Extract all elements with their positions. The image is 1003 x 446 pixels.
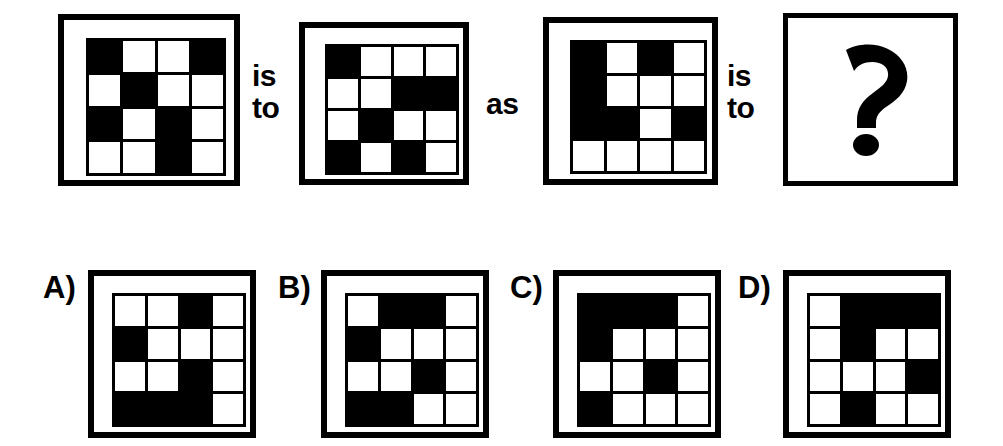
- cell-r1-c4: [213, 296, 243, 326]
- stem-panel-1-grid: [86, 38, 226, 176]
- cell-r1-c3: [414, 296, 444, 326]
- cell-r2-c4: [426, 79, 456, 108]
- cell-r1-c4: [426, 47, 456, 76]
- cell-r1-c4: [674, 43, 705, 73]
- cell-r4-c4: [213, 394, 243, 424]
- cell-r4-c1: [580, 394, 610, 424]
- cell-r1-c3: [876, 296, 906, 326]
- cell-r4-c2: [613, 394, 643, 424]
- option-c-grid: [577, 293, 711, 427]
- connector-is-to-1: is to: [252, 60, 279, 123]
- cell-r3-c3: [646, 362, 676, 392]
- stem-panel-2-inner: [313, 36, 455, 171]
- cell-r4-c3: [181, 394, 211, 424]
- cell-r3-c1: [810, 362, 840, 392]
- cell-r1-c4: [192, 41, 223, 72]
- cell-r4-c1: [348, 394, 378, 424]
- cell-r2-c2: [607, 76, 638, 106]
- cell-r4-c4: [674, 141, 705, 171]
- connector-is-1: is: [252, 60, 279, 92]
- cell-r1-c2: [843, 296, 873, 326]
- cell-r1-c1: [328, 47, 358, 76]
- cell-r3-c1: [580, 362, 610, 392]
- question-mark-icon: [788, 18, 953, 181]
- cell-r4-c3: [414, 394, 444, 424]
- cell-r2-c1: [328, 79, 358, 108]
- cell-r3-c4: [678, 362, 708, 392]
- stem-panel-3-grid: [570, 40, 707, 174]
- cell-r3-c4: [213, 362, 243, 392]
- cell-r1-c2: [361, 47, 391, 76]
- cell-r1-c1: [348, 296, 378, 326]
- cell-r4-c4: [192, 142, 223, 173]
- cell-r3-c3: [158, 109, 189, 140]
- cell-r3-c3: [876, 362, 906, 392]
- cell-r2-c3: [181, 329, 211, 359]
- cell-r2-c3: [394, 79, 424, 108]
- cell-r3-c2: [613, 362, 643, 392]
- cell-r2-c1: [115, 329, 145, 359]
- cell-r3-c2: [361, 111, 391, 140]
- cell-r4-c2: [123, 142, 154, 173]
- cell-r1-c1: [810, 296, 840, 326]
- option-b-letter: B): [278, 272, 311, 303]
- cell-r2-c4: [213, 329, 243, 359]
- cell-r3-c1: [115, 362, 145, 392]
- cell-r2-c4: [446, 329, 476, 359]
- cell-r4-c1: [115, 394, 145, 424]
- cell-r2-c3: [414, 329, 444, 359]
- option-b[interactable]: [321, 270, 489, 438]
- cell-r2-c2: [123, 75, 154, 106]
- cell-r1-c2: [148, 296, 178, 326]
- cell-r1-c4: [908, 296, 938, 326]
- cell-r1-c2: [381, 296, 411, 326]
- cell-r1-c1: [115, 296, 145, 326]
- stem-panel-1: [58, 14, 240, 186]
- connector-as: as: [486, 88, 518, 120]
- cell-r3-c3: [414, 362, 444, 392]
- option-d[interactable]: [783, 270, 951, 438]
- cell-r4-c2: [843, 394, 873, 424]
- cell-r4-c2: [607, 141, 638, 171]
- cell-r4-c1: [810, 394, 840, 424]
- cell-r3-c4: [446, 362, 476, 392]
- cell-r2-c2: [148, 329, 178, 359]
- cell-r2-c4: [908, 329, 938, 359]
- option-b-inner: [335, 284, 475, 424]
- connector-is-to-2: is to: [727, 60, 754, 123]
- cell-r1-c3: [394, 47, 424, 76]
- cell-r4-c3: [640, 141, 671, 171]
- cell-r3-c2: [381, 362, 411, 392]
- stem-panel-2: [299, 22, 469, 185]
- option-a[interactable]: [88, 270, 256, 438]
- cell-r1-c3: [181, 296, 211, 326]
- option-b-grid: [345, 293, 479, 427]
- option-c[interactable]: [553, 270, 721, 438]
- stem-panel-2-grid: [325, 44, 459, 175]
- cell-r3-c2: [148, 362, 178, 392]
- cell-r4-c4: [426, 143, 456, 172]
- cell-r3-c2: [123, 109, 154, 140]
- connector-as-label: as: [486, 88, 518, 120]
- question-panel: [783, 13, 958, 186]
- cell-r1-c1: [580, 296, 610, 326]
- cell-r4-c3: [646, 394, 676, 424]
- cell-r4-c4: [678, 394, 708, 424]
- option-d-letter: D): [738, 272, 771, 303]
- cell-r2-c1: [573, 76, 604, 106]
- cell-r3-c1: [573, 109, 604, 139]
- cell-r2-c3: [876, 329, 906, 359]
- option-c-letter: C): [510, 272, 543, 303]
- cell-r1-c3: [158, 41, 189, 72]
- cell-r2-c3: [158, 75, 189, 106]
- option-d-inner: [797, 284, 937, 424]
- cell-r4-c2: [148, 394, 178, 424]
- cell-r2-c2: [613, 329, 643, 359]
- option-a-grid: [112, 293, 246, 427]
- stem-panel-1-inner: [72, 28, 226, 172]
- cell-r4-c4: [908, 394, 938, 424]
- cell-r4-c4: [446, 394, 476, 424]
- option-d-grid: [807, 293, 941, 427]
- cell-r1-c3: [646, 296, 676, 326]
- cell-r2-c1: [580, 329, 610, 359]
